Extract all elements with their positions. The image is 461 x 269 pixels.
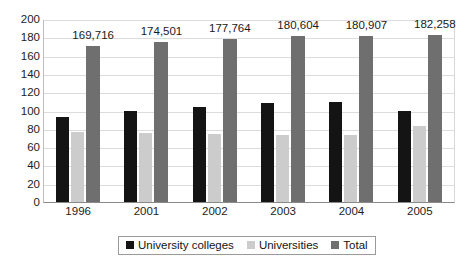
bar-group: 177,764 [181, 20, 249, 202]
x-axis-category-label: 2001 [112, 205, 180, 223]
bar-group: 182,258 [386, 20, 454, 202]
bar-2003-series-1 [276, 135, 289, 202]
bar-2005-series-2: 182,258 [428, 35, 442, 202]
legend-item-1[interactable]: Universities [247, 239, 318, 251]
bar-group: 180,604 [249, 20, 317, 202]
bar-chart: 200180160140120100806040200 169,716174,5… [0, 0, 461, 269]
x-axis-category-label: 1996 [44, 205, 112, 223]
bar-2001-series-2: 174,501 [154, 42, 168, 202]
legend-label: Total [343, 239, 367, 251]
series-2-swatch [331, 241, 339, 249]
y-axis-tick-label: 180 [4, 32, 40, 43]
bar-value-label: 180,907 [346, 19, 388, 31]
bar-group: 180,907 [317, 20, 385, 202]
bar-2001-series-0 [124, 111, 137, 202]
bar-group: 169,716 [44, 20, 112, 202]
bar-2002-series-0 [193, 107, 206, 202]
x-axis-category-label: 2003 [249, 205, 317, 223]
series-0-swatch [126, 241, 134, 249]
bar-2005-series-0 [398, 111, 411, 203]
legend-label: Universities [259, 239, 318, 251]
y-axis-tick-label: 120 [4, 87, 40, 98]
y-axis-tick-label: 160 [4, 51, 40, 62]
bar-2004-series-2: 180,907 [359, 36, 373, 202]
x-axis-category-label: 2002 [181, 205, 249, 223]
legend-item-0[interactable]: University colleges [126, 239, 234, 251]
bar-group: 174,501 [112, 20, 180, 202]
y-axis-tick-label: 140 [4, 69, 40, 80]
bar-2005-series-1 [413, 126, 426, 202]
bar-1996-series-2: 169,716 [86, 46, 100, 202]
chart-legend: University collegesUniversitiesTotal [118, 236, 376, 255]
legend-label: University colleges [138, 239, 234, 251]
y-axis-tick-label: 200 [4, 14, 40, 25]
bar-2004-series-0 [329, 102, 342, 202]
bar-2004-series-1 [344, 135, 357, 202]
bar-1996-series-0 [56, 117, 69, 202]
bar-1996-series-1 [71, 132, 84, 202]
bar-groups: 169,716174,501177,764180,604180,907182,2… [44, 20, 454, 202]
y-axis: 200180160140120100806040200 [0, 20, 40, 203]
bar-value-label: 182,258 [414, 18, 456, 30]
bar-2002-series-2: 177,764 [223, 39, 237, 202]
bar-value-label: 169,716 [72, 29, 114, 41]
x-axis: 199620012002200320042005 [44, 205, 454, 223]
x-axis-category-label: 2004 [317, 205, 385, 223]
series-1-swatch [247, 241, 255, 249]
bar-value-label: 180,604 [277, 19, 319, 31]
y-axis-tick-label: 20 [4, 179, 40, 190]
y-axis-tick-label: 40 [4, 160, 40, 171]
y-axis-tick-label: 60 [4, 142, 40, 153]
y-axis-tick-label: 80 [4, 124, 40, 135]
bar-2001-series-1 [139, 133, 152, 202]
bar-value-label: 174,501 [141, 25, 183, 37]
bar-2003-series-0 [261, 103, 274, 202]
bar-2002-series-1 [208, 134, 221, 202]
bar-value-label: 177,764 [209, 22, 251, 34]
x-axis-category-label: 2005 [386, 205, 454, 223]
legend-item-2[interactable]: Total [331, 239, 367, 251]
bar-2003-series-2: 180,604 [291, 36, 305, 202]
y-axis-tick-label: 0 [4, 197, 40, 208]
y-axis-tick-label: 100 [4, 106, 40, 117]
